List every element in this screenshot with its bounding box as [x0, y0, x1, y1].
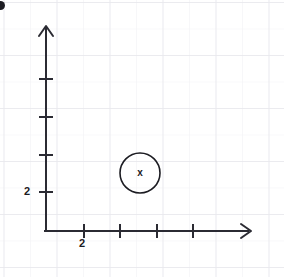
coordinate-plot [0, 0, 284, 277]
x-axis [45, 224, 251, 238]
circle-marker-label: x [132, 168, 148, 178]
y-axis [39, 26, 53, 231]
diagram-canvas: 2 2 x [0, 0, 284, 277]
x-axis-tick-label-2: 2 [79, 238, 85, 249]
y-axis-tick-label-2: 2 [24, 186, 30, 197]
